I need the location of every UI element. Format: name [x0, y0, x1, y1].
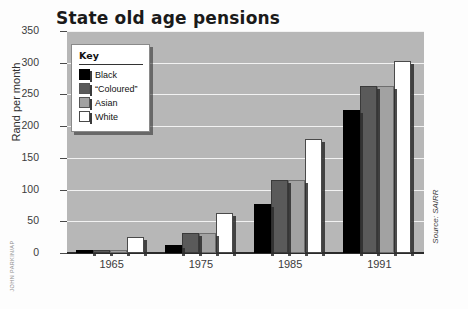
bar-shadow: [233, 216, 236, 256]
y-axis-tick-mark: [60, 94, 67, 95]
photo-credit: JOHN PARKIN/AP: [9, 235, 15, 297]
legend-swatch-icon: [79, 83, 90, 94]
bar: [343, 110, 360, 253]
bar-shadow: [377, 89, 380, 256]
y-axis-tick-label: 350: [0, 25, 39, 35]
legend-item: “Coloured”: [79, 83, 143, 94]
legend-swatch-icon: [79, 97, 90, 108]
bar-shadow: [288, 183, 291, 256]
y-axis-tick-mark: [60, 190, 67, 191]
bar-shadow: [182, 248, 185, 256]
bar: [254, 204, 271, 253]
legend-item: White: [79, 111, 143, 122]
legend: Key Black“Coloured”AsianWhite: [71, 44, 150, 132]
y-axis-tick-mark: [60, 126, 67, 127]
bar-shadow: [127, 253, 130, 256]
y-axis-tick-label: 100: [0, 184, 39, 194]
bar-face: [254, 204, 271, 253]
y-axis-tick-mark: [60, 221, 67, 222]
source-note: Source: SAIRR: [431, 186, 440, 248]
x-axis-tick-label: 1985: [255, 258, 325, 270]
y-axis-tick-label: 150: [0, 152, 39, 162]
bar-shadow: [411, 64, 414, 256]
y-axis-tick-mark: [60, 253, 67, 254]
y-axis-tick-label: 200: [0, 120, 39, 130]
bar-face: [76, 250, 93, 253]
bar: [165, 245, 182, 253]
bar-face: [165, 245, 182, 253]
bar-group: [343, 31, 411, 253]
x-axis-tick-label: 1975: [166, 258, 236, 270]
bar-group: [165, 31, 233, 253]
legend-item: Black: [79, 69, 143, 80]
chart-figure: State old age pensions Rand per month 05…: [0, 0, 468, 309]
bar-shadow: [322, 142, 325, 256]
legend-item: Asian: [79, 97, 143, 108]
bar-face: [343, 110, 360, 253]
y-axis-tick-mark: [60, 158, 67, 159]
legend-label: Asian: [95, 98, 118, 108]
bar-shadow: [305, 183, 308, 256]
y-axis-tick-label: 0: [0, 247, 39, 257]
x-axis-tick-label: 1965: [77, 258, 147, 270]
y-axis-tick-label: 50: [0, 215, 39, 225]
y-axis-tick-label: 250: [0, 88, 39, 98]
bar-shadow: [144, 240, 147, 256]
y-axis-tick-mark: [60, 63, 67, 64]
y-axis-tick-label: 300: [0, 57, 39, 67]
legend-swatch-icon: [79, 69, 90, 80]
bar-shadow: [394, 89, 397, 256]
bar-shadow: [360, 113, 363, 256]
legend-label: Black: [95, 70, 117, 80]
bar: [127, 237, 144, 253]
x-axis-tick-label: 1991: [344, 258, 414, 270]
bar-shadow: [93, 253, 96, 256]
page-title: State old age pensions: [56, 8, 280, 28]
bar-shadow: [271, 207, 274, 256]
legend-title: Key: [79, 50, 143, 65]
legend-label: “Coloured”: [95, 84, 138, 94]
bar-face: [127, 237, 144, 253]
bar-shadow: [110, 253, 113, 256]
y-axis-tick-mark: [60, 31, 67, 32]
bar-group: [254, 31, 322, 253]
bar-shadow: [216, 236, 219, 256]
bar-shadow: [199, 236, 202, 256]
legend-label: White: [95, 112, 118, 122]
legend-swatch-icon: [79, 111, 90, 122]
bar: [76, 250, 93, 253]
